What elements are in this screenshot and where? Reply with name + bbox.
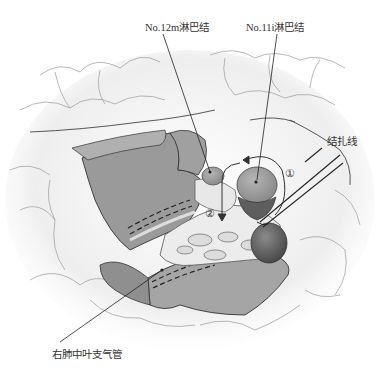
node-12m: [202, 167, 224, 185]
label-node-11i: No.11i淋巴结: [246, 22, 305, 34]
illustration-svg: [0, 0, 382, 382]
label-node-12m: No.12m淋巴结: [145, 22, 209, 34]
step-marker-2: ②: [205, 207, 215, 219]
label-ligature: 结扎线: [327, 136, 357, 148]
surgical-illustration: No.12m淋巴结 No.11i淋巴结 结扎线 右肺中叶支气管 ① ②: [0, 0, 382, 382]
ligated-node: [251, 222, 287, 263]
label-bronchus: 右肺中叶支气管: [52, 349, 122, 361]
step-marker-1: ①: [285, 167, 295, 179]
